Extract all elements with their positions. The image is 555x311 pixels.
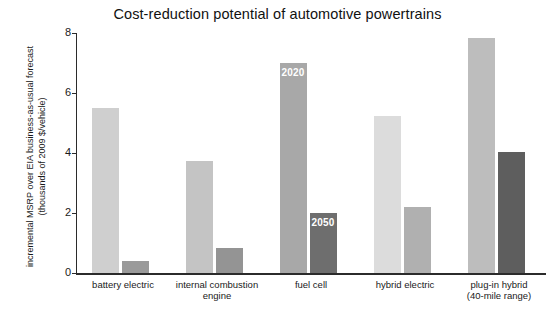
plot-area: 02468 20202050 battery electricinternal … xyxy=(76,33,546,273)
category-label-line1: plug-in hybrid xyxy=(470,279,527,290)
category-label-line2: (40-mile range) xyxy=(440,290,555,301)
y-tick-mark xyxy=(72,33,77,34)
bar-annotation: 2050 xyxy=(310,217,337,228)
category-label-line1: internal combustion xyxy=(176,279,258,290)
bar xyxy=(498,152,525,274)
category-label-line1: battery electric xyxy=(92,279,154,290)
bar xyxy=(216,248,243,274)
bar xyxy=(374,116,401,274)
y-tick-mark xyxy=(72,273,77,274)
chart-figure: Cost-reduction potential of automotive p… xyxy=(0,0,555,311)
y-axis-line xyxy=(76,33,77,273)
bar: 2050 xyxy=(310,213,337,273)
y-tick-label: 8 xyxy=(51,26,71,38)
x-axis-category-label: plug-in hybrid(40-mile range) xyxy=(440,279,555,301)
bar: 2020 xyxy=(280,63,307,273)
category-label-line2: engine xyxy=(158,290,276,301)
y-tick-label: 4 xyxy=(51,146,71,158)
y-tick-mark xyxy=(72,93,77,94)
bar xyxy=(186,161,213,274)
bar xyxy=(468,38,495,274)
y-tick-mark xyxy=(72,153,77,154)
bar xyxy=(92,108,119,273)
y-tick-label: 6 xyxy=(51,86,71,98)
y-tick-mark xyxy=(72,213,77,214)
y-tick-label: 2 xyxy=(51,206,71,218)
bar xyxy=(122,261,149,273)
category-label-line1: fuel cell xyxy=(295,279,327,290)
chart-title: Cost-reduction potential of automotive p… xyxy=(0,6,555,22)
category-label-line1: hybrid electric xyxy=(376,279,435,290)
y-axis-label-line2: (thousands of 2009 $/vehicle) xyxy=(36,37,48,277)
bar-annotation: 2020 xyxy=(280,67,307,78)
y-axis-label-line1: incremental MSRP over EIA business-as-us… xyxy=(25,46,35,267)
bar xyxy=(404,207,431,273)
y-axis-label: incremental MSRP over EIA business-as-us… xyxy=(25,37,48,277)
x-axis-line xyxy=(76,273,546,275)
y-tick-label: 0 xyxy=(51,266,71,278)
